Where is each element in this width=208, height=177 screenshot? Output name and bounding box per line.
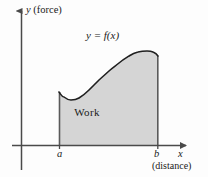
x-axis-unit-label: (distance) — [152, 161, 191, 171]
upper-limit-label: b — [154, 149, 159, 160]
work-region-label: Work — [74, 107, 99, 118]
work-integral-figure: y (force) y = f(x) Work a b x (distance) — [0, 0, 208, 177]
function-label: y = f(x) — [86, 30, 119, 41]
work-area-region — [59, 51, 158, 145]
figure-canvas — [0, 0, 208, 177]
y-axis-unit: (force) — [31, 4, 62, 15]
lower-limit-label: a — [57, 149, 62, 160]
x-axis-label: x — [178, 149, 183, 160]
y-axis-label: y (force) — [26, 5, 62, 16]
